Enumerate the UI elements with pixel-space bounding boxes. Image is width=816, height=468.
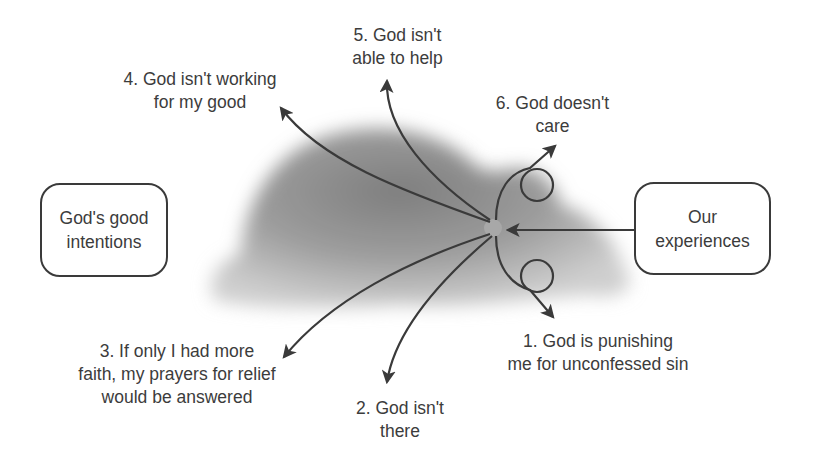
gods-good-intentions-box: God's good intentions — [40, 183, 168, 277]
gods-good-intentions-label: God's good intentions — [60, 206, 149, 254]
label-3-more-faith: 3. If only I had more faith, my prayers … — [52, 340, 302, 409]
our-experiences-box: Our experiences — [634, 182, 771, 275]
label-4-not-working: 4. God isn't working for my good — [100, 68, 300, 114]
label-1-punishing: 1. God is punishing me for unconfessed s… — [478, 330, 718, 376]
label-6-doesnt-care: 6. God doesn't care — [475, 92, 630, 138]
label-2-not-there: 2. God isn't there — [330, 397, 470, 443]
our-experiences-label: Our experiences — [655, 205, 749, 253]
cloud-of-misconceptions — [211, 128, 629, 308]
diagram-canvas: God's good intentions Our experiences 1.… — [0, 0, 816, 468]
label-5-not-able: 5. God isn't able to help — [325, 24, 470, 70]
